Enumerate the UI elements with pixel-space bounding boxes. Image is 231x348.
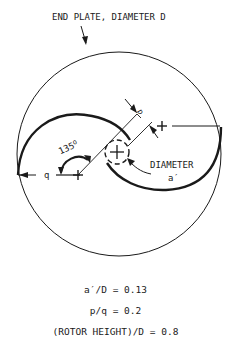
diameter-leader-arrow bbox=[127, 158, 151, 174]
diameter-label: DIAMETER bbox=[150, 160, 194, 170]
q-label: q bbox=[44, 170, 49, 180]
a-prime-label: a′ bbox=[168, 173, 179, 183]
angle-label: 135o bbox=[57, 138, 80, 157]
right-blade bbox=[107, 127, 221, 190]
p-arrow-bottom bbox=[149, 125, 158, 138]
end-plate-arrow bbox=[81, 26, 88, 45]
end-plate-label: END PLATE, DIAMETER D bbox=[52, 12, 166, 22]
end-plate-circle bbox=[17, 52, 221, 256]
right-axis-plus bbox=[157, 121, 167, 131]
equation-a-prime-over-d: a′/D = 0.13 bbox=[0, 284, 231, 295]
equation-rotor-height-over-d: (ROTOR HEIGHT)/D = 0.8 bbox=[0, 326, 231, 337]
rotor-end-plate-diagram: END PLATE, DIAMETER D q p bbox=[0, 0, 231, 348]
angle-arc bbox=[58, 155, 91, 175]
equation-p-over-q: p/q = 0.2 bbox=[0, 305, 231, 316]
p-offset-line bbox=[128, 122, 152, 146]
shaft-center-plus bbox=[110, 145, 124, 159]
